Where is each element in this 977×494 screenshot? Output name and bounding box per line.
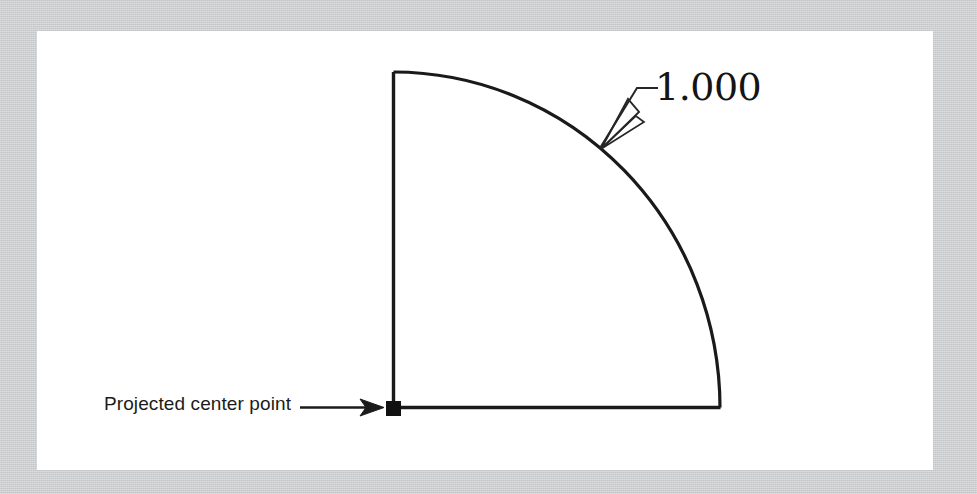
- quarter-circle-arc: [394, 72, 721, 408]
- dimension-leader-line: [600, 88, 658, 148]
- radius-dimension-text: 1.000: [655, 66, 761, 108]
- dimension-arrowhead-outer: [601, 99, 639, 149]
- dimension-arrowhead-inner: [601, 116, 644, 149]
- figure-root: Projected center point 1.000: [0, 0, 977, 494]
- center-point-marker: [386, 401, 401, 416]
- cad-drawing: [0, 0, 977, 494]
- projected-center-point-label: Projected center point: [104, 393, 291, 415]
